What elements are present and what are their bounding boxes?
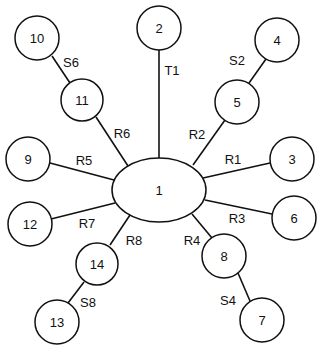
network-diagram: 1234567891011121314 T1R1R2S2R3R4S4R5R6S6…	[0, 0, 320, 350]
node-6: 6	[272, 196, 316, 240]
node-label: 1	[155, 183, 162, 198]
node-2: 2	[137, 6, 181, 50]
node-label: 9	[24, 152, 31, 167]
edge-label-r2: R2	[189, 127, 206, 142]
node-9: 9	[6, 137, 50, 181]
node-14: 14	[76, 243, 118, 285]
edge-label-r3: R3	[229, 211, 246, 226]
node-12: 12	[8, 202, 52, 246]
node-label: 14	[90, 257, 104, 272]
node-hub-1: 1	[112, 158, 206, 222]
node-7: 7	[240, 298, 284, 342]
node-label: 2	[155, 21, 162, 36]
node-label: 3	[288, 152, 295, 167]
edge-label-t1: T1	[164, 63, 179, 78]
edge-s4	[238, 273, 250, 301]
edge-label-r1: R1	[225, 152, 242, 167]
node-label: 7	[258, 313, 265, 328]
edge-r6	[96, 117, 128, 166]
node-label: 5	[233, 95, 240, 110]
edge-label-r5: R5	[76, 153, 93, 168]
node-3: 3	[270, 137, 314, 181]
node-label: 4	[273, 33, 280, 48]
edge-label-s8: S8	[80, 295, 96, 310]
node-10: 10	[15, 16, 59, 60]
node-5: 5	[215, 80, 259, 124]
edge-label-s6: S6	[63, 55, 79, 70]
node-label: 12	[23, 217, 37, 232]
node-label: 13	[50, 315, 64, 330]
node-4: 4	[255, 18, 299, 62]
node-label: 6	[290, 211, 297, 226]
node-11: 11	[61, 79, 103, 121]
node-label: 8	[220, 249, 227, 264]
edge-label-r6: R6	[114, 126, 131, 141]
node-13: 13	[35, 300, 79, 344]
edge-label-r4: R4	[184, 233, 201, 248]
edge-label-r8: R8	[126, 233, 143, 248]
edge-label-s2: S2	[229, 53, 245, 68]
node-label: 11	[75, 93, 89, 108]
edge-s2	[249, 59, 266, 83]
edge-label-s4: S4	[220, 293, 236, 308]
node-label: 10	[30, 31, 44, 46]
node-8: 8	[202, 234, 246, 278]
edge-label-r7: R7	[79, 216, 96, 231]
